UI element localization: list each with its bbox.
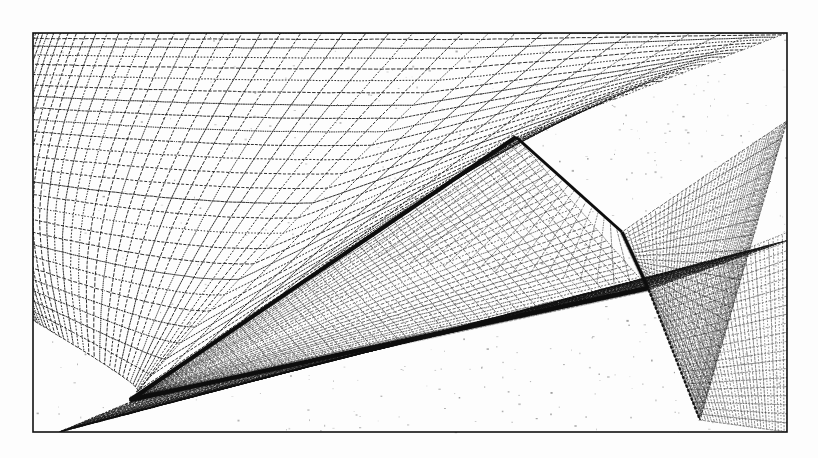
speckle-dot (607, 376, 610, 378)
speckle-dot (431, 146, 432, 148)
speckle-dot (85, 354, 87, 356)
speckle-dot (105, 135, 106, 136)
speckle-dot (613, 278, 615, 279)
speckle-dot (145, 262, 147, 263)
speckle-dot (626, 245, 628, 247)
speckle-dot (656, 400, 657, 402)
speckle-dot (38, 319, 40, 320)
speckle-dot (707, 75, 709, 76)
speckle-dot (642, 34, 643, 35)
speckle-dot (389, 211, 391, 212)
speckle-dot (424, 296, 426, 297)
speckle-dot (375, 185, 376, 186)
speckle-dot (264, 61, 265, 62)
speckle-dot (289, 428, 291, 430)
speckle-dot (728, 176, 729, 177)
speckle-dot (519, 53, 521, 55)
speckle-dot (619, 129, 621, 130)
speckle-dot (749, 231, 751, 233)
speckle-dot (646, 121, 647, 122)
speckle-dot (484, 386, 485, 388)
speckle-dot (548, 220, 550, 222)
speckle-dot (541, 263, 543, 265)
speckle-dot (141, 293, 143, 295)
speckle-dot (353, 294, 354, 295)
speckle-dot (248, 200, 249, 201)
speckle-dot (112, 51, 115, 52)
speckle-dot (516, 352, 518, 353)
speckle-dot (628, 258, 630, 259)
speckle-dot (397, 154, 398, 155)
speckle-dot (628, 325, 630, 326)
speckle-dot (784, 40, 786, 41)
speckle-dot (551, 240, 553, 241)
speckle-dot (741, 411, 743, 412)
speckle-dot (98, 210, 99, 211)
speckle-dot (227, 34, 229, 35)
speckle-dot (626, 44, 628, 45)
speckle-dot (504, 173, 505, 174)
speckle-dot (615, 150, 617, 151)
speckle-dot (643, 237, 644, 238)
speckle-dot (214, 124, 216, 125)
speckle-dot (661, 177, 663, 179)
speckle-dot (314, 286, 316, 287)
speckle-dot (585, 156, 588, 157)
speckle-dot (732, 342, 734, 344)
speckle-dot (705, 208, 707, 209)
speckle-dot (655, 171, 657, 173)
speckle-dot (333, 380, 334, 382)
speckle-dot (703, 177, 704, 179)
speckle-dot (627, 84, 629, 85)
speckle-dot (232, 150, 233, 151)
speckle-dot (645, 173, 647, 175)
speckle-dot (730, 278, 732, 279)
speckle-dot (787, 328, 788, 330)
speckle-dot (427, 385, 428, 386)
speckle-dot (358, 380, 359, 381)
speckle-dot (396, 234, 398, 236)
speckle-dot (196, 399, 197, 400)
speckle-dot (135, 222, 137, 223)
speckle-dot (696, 196, 698, 197)
speckle-dot (637, 248, 639, 249)
speckle-dot (667, 311, 668, 312)
speckle-dot (674, 372, 675, 373)
speckle-dot (594, 55, 595, 56)
speckle-dot (53, 259, 54, 261)
speckle-dot (487, 348, 489, 350)
speckle-dot (550, 414, 552, 416)
speckle-dot (634, 35, 635, 36)
speckle-dot (697, 323, 698, 324)
speckle-dot (504, 99, 505, 100)
speckle-dot (658, 33, 660, 35)
speckle-dot (435, 370, 437, 371)
speckle-dot (332, 48, 334, 50)
speckle-dot (452, 312, 453, 314)
speckle-dot (544, 47, 545, 49)
speckle-dot (197, 264, 198, 265)
speckle-dot (288, 222, 290, 223)
speckle-dot (285, 78, 286, 79)
speckle-dot (502, 120, 503, 121)
speckle-dot (398, 88, 400, 89)
speckle-dot (342, 90, 343, 91)
speckle-dot (535, 194, 537, 195)
speckle-dot (767, 140, 769, 141)
speckle-dot (730, 267, 732, 269)
speckle-dot (574, 48, 575, 49)
speckle-dot (675, 400, 677, 401)
speckle-dot (531, 121, 533, 122)
speckle-dot (459, 397, 461, 399)
speckle-dot (356, 414, 358, 415)
speckle-dot (706, 368, 707, 369)
speckle-dot (541, 51, 543, 52)
speckle-dot (679, 412, 680, 414)
speckle-dot (80, 417, 81, 419)
speckle-dot (327, 201, 329, 202)
speckle-dot (729, 195, 730, 197)
speckle-dot (587, 158, 589, 160)
speckle-dot (701, 155, 703, 157)
speckle-dot (437, 318, 439, 320)
speckle-dot (568, 111, 570, 112)
